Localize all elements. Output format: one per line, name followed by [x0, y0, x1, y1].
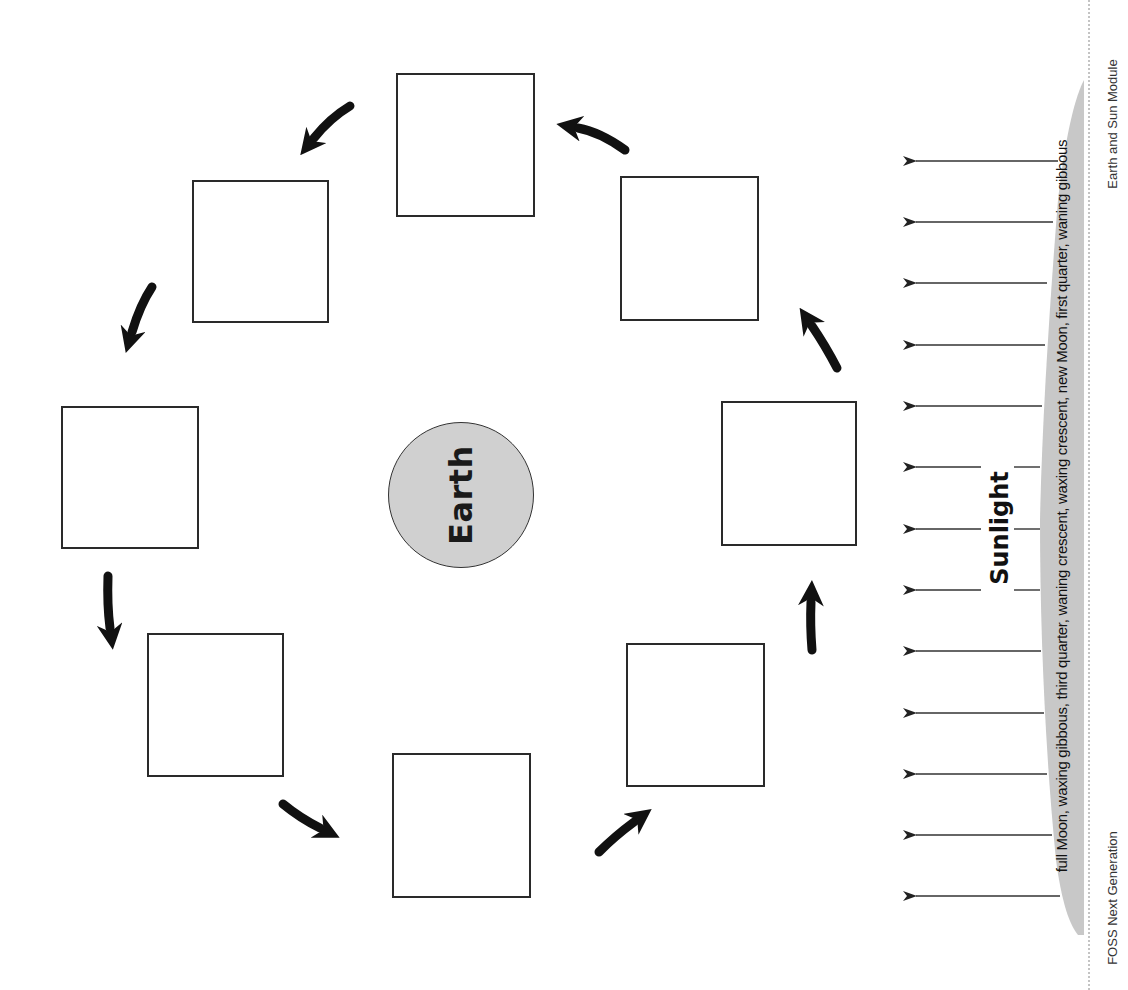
- phase-box-lower-right[interactable]: [626, 643, 765, 787]
- orbit-arrow-icon: [811, 602, 812, 650]
- orbit-arrow-icon: [314, 106, 350, 138]
- orbit-arrow-icon: [132, 287, 152, 332]
- orbit-arrow-icon: [599, 822, 634, 852]
- phase-box-bottom[interactable]: [392, 753, 531, 898]
- phase-box-lower-left[interactable]: [147, 633, 284, 777]
- phase-box-upper-right[interactable]: [620, 176, 759, 321]
- phase-box-left[interactable]: [61, 406, 199, 549]
- sunlight-label: Sunlight: [986, 471, 1014, 585]
- footer-publisher: FOSS Next Generation: [1105, 831, 1120, 965]
- orbit-arrow-icon: [108, 576, 110, 628]
- footer-module-name: Earth and Sun Module: [1105, 59, 1120, 188]
- earth-label: Earth: [442, 445, 480, 545]
- earth-circle: Earth: [388, 422, 534, 568]
- phase-box-right[interactable]: [721, 401, 857, 546]
- phase-box-top[interactable]: [396, 73, 535, 217]
- orbit-arrow-icon: [812, 326, 837, 368]
- orbit-arrow-icon: [283, 804, 320, 828]
- answer-bank-text: full Moon, waxing gibbous, third quarter…: [1053, 140, 1070, 873]
- phase-box-upper-left[interactable]: [192, 180, 329, 323]
- orbit-arrow-icon: [578, 128, 625, 150]
- moon-phases-diagram: Earth Sunlight full Moon, waxing gibbous…: [0, 0, 1128, 990]
